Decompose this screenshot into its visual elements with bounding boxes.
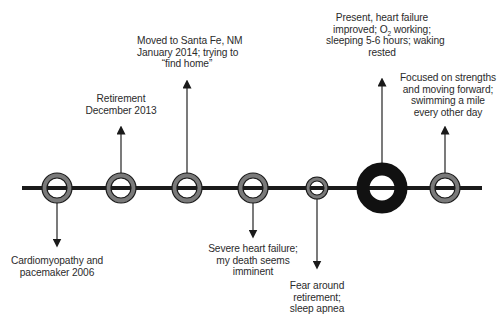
label-cardiomyopathy: Cardiomyopathy and pacemaker 2006: [7, 255, 107, 278]
label-fear-retirement: Fear around retirement; sleep apnea: [282, 280, 352, 315]
label-line: January 2014; trying to: [137, 47, 237, 59]
label-line-o2: improved; O2 working;: [326, 24, 438, 36]
label-focused-strengths: Focused on strengths and moving forward;…: [398, 72, 498, 118]
label-line: December 2013: [81, 105, 161, 117]
label-line: every other day: [398, 107, 498, 119]
label-line: and moving forward;: [398, 84, 498, 96]
label-line: imminent: [203, 266, 303, 278]
label-line: Moved to Santa Fe, NM: [137, 35, 237, 47]
label-line: retirement;: [282, 292, 352, 304]
label-line: my death seems: [203, 255, 303, 267]
label-line: Focused on strengths: [398, 72, 498, 84]
label-line: Fear around: [282, 280, 352, 292]
label-line: Retirement: [81, 93, 161, 105]
label-text: working;: [391, 24, 431, 35]
label-line: rested: [326, 47, 438, 59]
label-line: Cardiomyopathy and: [7, 255, 107, 267]
label-line: Severe heart failure;: [203, 243, 303, 255]
label-retirement: Retirement December 2013: [81, 93, 161, 116]
label-line: pacemaker 2006: [7, 267, 107, 279]
label-text: improved; O: [333, 24, 387, 35]
label-line: Present, heart failure: [326, 12, 438, 24]
label-line: sleep apnea: [282, 303, 352, 315]
label-present: Present, heart failure improved; O2 work…: [326, 12, 438, 58]
label-line: “find home”: [137, 58, 237, 70]
label-line: sleeping 5-6 hours; waking: [326, 35, 438, 47]
label-moved-santa-fe: Moved to Santa Fe, NM January 2014; tryi…: [137, 35, 237, 70]
label-line: swimming a mile: [398, 95, 498, 107]
label-severe-heart-failure: Severe heart failure; my death seems imm…: [203, 243, 303, 278]
